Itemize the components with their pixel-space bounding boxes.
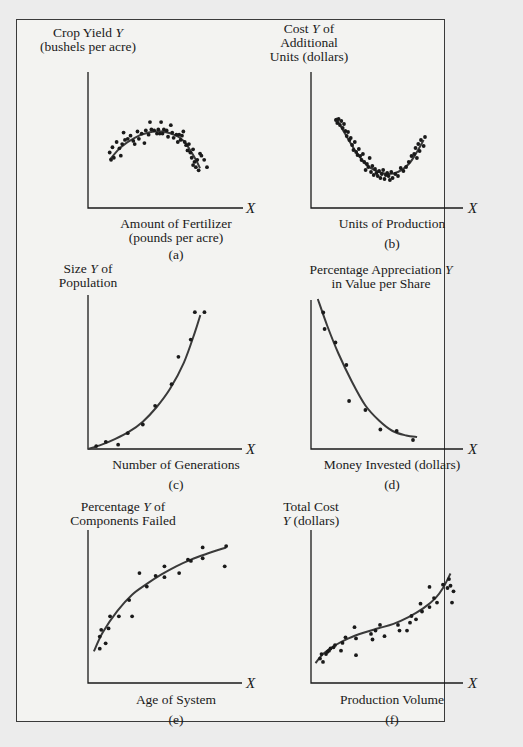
data-point: [447, 577, 451, 581]
data-point: [147, 133, 151, 137]
data-point: [205, 165, 209, 169]
data-point: [122, 131, 126, 135]
data-point: [94, 444, 98, 448]
data-point: [369, 632, 373, 636]
data-point: [179, 138, 183, 142]
data-point: [129, 134, 133, 138]
data-point: [98, 647, 102, 651]
data-point: [357, 147, 361, 151]
data-point: [381, 168, 385, 172]
panel-e: [88, 530, 242, 683]
data-point: [368, 156, 372, 160]
data-point: [396, 623, 400, 627]
data-point: [321, 311, 325, 315]
data-point: [108, 151, 112, 155]
data-point: [159, 120, 163, 124]
data-point: [119, 154, 123, 158]
x-axis-label-d: Money Invested (dollars): [292, 458, 492, 472]
data-point: [378, 428, 382, 432]
data-point: [408, 621, 412, 625]
data-point: [373, 167, 377, 171]
panel-caption-c: (c): [146, 477, 206, 493]
data-point: [161, 132, 165, 136]
panel-a: [88, 72, 243, 208]
data-point: [323, 327, 327, 331]
data-point: [190, 156, 194, 160]
data-point: [145, 585, 149, 589]
data-point: [333, 643, 337, 647]
axes: [88, 530, 242, 683]
data-point: [420, 610, 424, 614]
x-variable-d: X: [468, 441, 477, 458]
data-point: [389, 170, 393, 174]
data-point: [387, 174, 391, 178]
data-point: [320, 652, 324, 656]
data-point: [414, 146, 418, 150]
data-point: [364, 168, 368, 172]
data-point: [402, 169, 406, 173]
data-point: [126, 431, 130, 435]
fit-curve: [94, 547, 226, 651]
data-point: [154, 574, 158, 578]
data-point: [166, 135, 170, 139]
data-point: [435, 601, 439, 605]
y-axis-label-a: Crop Yield Y(bushels per acre): [0, 26, 178, 54]
data-point: [432, 596, 436, 600]
data-point: [450, 601, 454, 605]
data-point: [141, 423, 145, 427]
fit-curve: [318, 299, 417, 437]
data-point: [422, 144, 426, 148]
data-point: [200, 154, 204, 158]
data-point: [188, 151, 192, 155]
panel-caption-f: (f): [362, 712, 422, 728]
panel-c: [88, 295, 242, 449]
data-point: [449, 584, 453, 588]
data-point: [346, 130, 350, 134]
data-point: [117, 614, 121, 618]
data-point: [353, 140, 357, 144]
data-point: [379, 176, 383, 180]
data-point: [112, 156, 116, 160]
data-point: [411, 438, 415, 442]
data-point: [130, 614, 134, 618]
axes: [311, 72, 463, 208]
data-point: [191, 147, 195, 151]
data-point: [405, 629, 409, 633]
data-point: [115, 140, 119, 144]
data-point: [156, 127, 160, 131]
data-point: [428, 585, 432, 589]
axes: [88, 72, 243, 208]
x-variable-c: X: [246, 441, 255, 458]
data-point: [341, 126, 345, 130]
data-point: [396, 174, 400, 178]
data-point: [99, 628, 103, 632]
data-point: [224, 544, 228, 548]
data-point: [354, 653, 358, 657]
data-point: [189, 559, 193, 563]
data-point: [197, 168, 201, 172]
data-point: [203, 310, 207, 314]
data-point: [410, 614, 414, 618]
data-point: [383, 177, 387, 181]
data-point: [354, 637, 358, 641]
data-point: [126, 137, 130, 141]
data-point: [144, 129, 148, 133]
data-point: [148, 120, 152, 124]
data-point: [177, 355, 181, 359]
data-point: [163, 564, 167, 568]
figure-plots: [0, 0, 523, 747]
data-point: [107, 627, 111, 631]
data-point: [341, 641, 345, 645]
data-point: [441, 583, 445, 587]
data-point: [350, 143, 354, 147]
fit-curve: [88, 315, 200, 449]
data-point: [399, 166, 403, 170]
panel-caption-b: (b): [362, 236, 422, 252]
data-point: [169, 123, 173, 127]
data-point: [201, 556, 205, 560]
data-point: [347, 399, 351, 403]
x-variable-b: X: [468, 200, 477, 217]
data-point: [165, 129, 169, 133]
y-axis-label-f: Total CostY (dollars): [221, 500, 401, 528]
data-point: [187, 142, 191, 146]
